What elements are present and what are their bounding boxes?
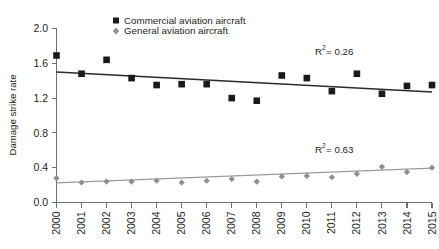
y-tick-label-4: 1.6: [33, 57, 48, 69]
data-point-general-2005: [179, 179, 185, 185]
data-point-general-2011: [329, 174, 335, 180]
data-point-general-2000: [53, 175, 59, 181]
x-tick-label-2015: 2015: [426, 211, 438, 235]
y-tick-label-2: 0.8: [33, 127, 48, 139]
data-point-commercial-2013: [379, 90, 386, 97]
trendline-commercial: [57, 72, 433, 92]
x-tick-label-2014: 2014: [401, 211, 413, 235]
x-tick-label-2002: 2002: [100, 211, 112, 235]
x-tick-label-2013: 2013: [376, 211, 388, 235]
x-axis-ticks: [57, 203, 433, 208]
x-tick-label-2004: 2004: [150, 211, 162, 235]
y-tick-label-3: 1.2: [33, 92, 48, 104]
data-point-commercial-2005: [178, 81, 185, 88]
y-axis-title: Damage strike rate: [7, 74, 18, 155]
x-tick-label-2008: 2008: [250, 211, 262, 235]
data-point-commercial-2009: [279, 72, 286, 79]
data-point-commercial-2002: [103, 57, 110, 64]
annotation-r-squared-general: R 2 = 0.63: [315, 142, 354, 154]
data-point-commercial-2011: [329, 88, 336, 95]
legend-marker-general-diamond-icon: [113, 28, 119, 35]
x-tick-label-2005: 2005: [175, 211, 187, 235]
data-point-general-2013: [379, 164, 385, 170]
data-point-commercial-2004: [153, 82, 160, 89]
data-point-general-2001: [78, 179, 84, 185]
x-tick-label-2001: 2001: [75, 211, 87, 235]
data-points-group: [53, 52, 435, 185]
legend-label-general: General aviation aircraft: [124, 25, 228, 36]
data-point-commercial-2010: [304, 75, 311, 82]
data-point-commercial-2000: [53, 52, 60, 59]
x-tick-label-2010: 2010: [300, 211, 312, 235]
legend-marker-commercial-square-icon: [113, 18, 119, 24]
trendlines-group: [57, 72, 433, 183]
data-point-general-2002: [103, 179, 109, 185]
x-tick-label-2012: 2012: [351, 211, 363, 235]
annotation-commercial-suffix: = 0.26: [326, 46, 354, 57]
annotation-r-squared-commercial: R 2 = 0.26: [315, 44, 354, 56]
y-tick-label-5: 2.0: [33, 22, 48, 34]
data-point-commercial-2008: [253, 97, 260, 104]
y-axis-tick-labels: 0.0 0.4 0.8 1.2 1.6 2.0: [33, 22, 48, 208]
chart-legend: Commercial aviation aircraft General avi…: [113, 15, 246, 37]
x-tick-label-2011: 2011: [325, 211, 337, 234]
x-tick-label-2006: 2006: [200, 211, 212, 235]
trendline-general: [57, 168, 433, 183]
x-tick-label-2009: 2009: [275, 211, 287, 235]
y-tick-label-1: 0.4: [33, 161, 48, 173]
x-tick-label-2000: 2000: [50, 211, 62, 235]
data-point-general-2015: [429, 165, 435, 171]
y-tick-label-0: 0.0: [33, 196, 48, 208]
legend-label-commercial: Commercial aviation aircraft: [124, 15, 246, 26]
damage-strike-rate-scatter-chart: 0.0 0.4 0.8 1.2 1.6 2.0 Damage strike ra…: [0, 0, 439, 249]
data-point-commercial-2012: [354, 70, 361, 77]
data-point-commercial-2001: [78, 70, 85, 77]
data-point-commercial-2003: [128, 75, 135, 82]
data-point-commercial-2015: [429, 82, 436, 89]
data-point-commercial-2006: [203, 81, 210, 88]
x-tick-label-2007: 2007: [225, 211, 237, 235]
x-tick-label-2003: 2003: [125, 211, 137, 235]
data-point-general-2007: [229, 176, 235, 182]
data-point-commercial-2007: [228, 95, 235, 102]
data-point-general-2008: [254, 179, 260, 185]
data-point-general-2006: [204, 178, 210, 184]
annotation-general-suffix: = 0.63: [326, 144, 354, 155]
chart-figure: 0.0 0.4 0.8 1.2 1.6 2.0 Damage strike ra…: [0, 0, 439, 249]
x-axis-tick-labels: 2000200120022003200420052006200720082009…: [50, 211, 438, 235]
data-point-commercial-2014: [404, 83, 411, 90]
